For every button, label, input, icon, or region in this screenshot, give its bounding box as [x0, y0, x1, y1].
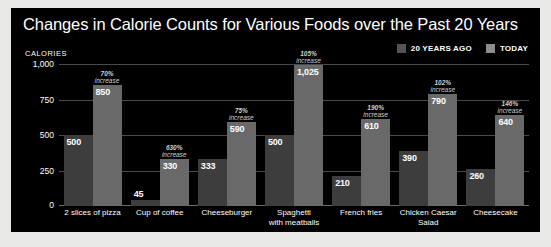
x-label-line1: Chicken Caesar [395, 208, 462, 218]
bars: 260 146% increase 640 [462, 64, 529, 206]
bar-value-old-coffee: 45 [134, 189, 144, 199]
pct-number: 70% [95, 70, 120, 77]
legend-swatch-icon-today [486, 44, 495, 53]
pct-annotation-cheeseburger: 75% increase [229, 107, 254, 121]
pct-word: increase [430, 86, 455, 93]
x-label-line1: Cup of coffee [126, 208, 193, 218]
x-label-line1: 2 slices of pizza [59, 208, 126, 218]
x-label-chicken-caesar-salad: Chicken Caesar Salad [395, 208, 462, 227]
legend-label-today: TODAY [500, 44, 528, 53]
pct-word: increase [296, 57, 321, 64]
bar-value-new-coffee: 330 [163, 161, 177, 171]
bar-value-old-cheesecake: 260 [469, 171, 483, 181]
ytick-label-750: 750 [40, 95, 54, 105]
bars: 333 75% increase 590 [193, 64, 260, 206]
pct-annotation-cheesecake: 146% increase [498, 100, 523, 114]
bar-new-pizza[interactable]: 70% increase 850 [93, 85, 122, 206]
bar-value-old-cheeseburger: 333 [201, 161, 215, 171]
bar-value-new-spaghetti: 1,025 [297, 67, 319, 77]
legend-label-20-years-ago: 20 YEARS AGO [411, 44, 472, 53]
bar-value-old-spaghetti: 500 [268, 137, 282, 147]
bar-group-pizza: 500 70% increase 850 [59, 64, 126, 206]
bar-value-old-french-fries: 210 [335, 178, 349, 188]
bar-old-cheeseburger[interactable]: 333 [198, 159, 227, 206]
ytick-label-250: 250 [40, 166, 54, 176]
pct-number: 102% [430, 79, 455, 86]
bar-value-new-pizza: 850 [96, 87, 110, 97]
legend-swatch-icon-20-years-ago [397, 44, 406, 53]
pct-number: 630% [162, 144, 187, 151]
x-label-line1: Spaghetti [260, 208, 327, 218]
chart-card: Changes in Calorie Counts for Various Fo… [11, 8, 540, 232]
chart-legend: 20 YEARS AGO TODAY [397, 44, 528, 53]
ytick-label-1000: 1,000 [33, 59, 54, 69]
bar-old-coffee[interactable]: 45 [131, 200, 160, 206]
legend-item-today: TODAY [486, 44, 528, 53]
bar-new-french-fries[interactable]: 190% increase 610 [361, 119, 390, 206]
bar-value-old-pizza: 500 [67, 137, 81, 147]
x-label-pizza: 2 slices of pizza [59, 208, 126, 227]
bar-new-spaghetti[interactable]: 105% increase 1,025 [294, 65, 323, 206]
bar-value-new-chicken-caesar-salad: 790 [431, 96, 445, 106]
bars: 45 630% increase 330 [126, 64, 193, 206]
legend-item-20-years-ago: 20 YEARS AGO [397, 44, 472, 53]
x-label-line2: with meatballs [260, 218, 327, 228]
bars: 500 70% increase 850 [59, 64, 126, 206]
y-axis-caption: CALORIES [25, 49, 67, 58]
pct-word: increase [363, 111, 388, 118]
plot-area: 1,000 750 500 250 0 500 [59, 64, 529, 206]
bar-new-coffee[interactable]: 630% increase 330 [160, 159, 189, 206]
x-label-cheesecake: Cheesecake [462, 208, 529, 227]
bar-old-chicken-caesar-salad[interactable]: 390 [399, 151, 428, 206]
x-label-cheeseburger: Cheeseburger [193, 208, 260, 227]
pct-word: increase [162, 151, 187, 158]
bar-group-spaghetti: 500 105% increase 1,025 [260, 64, 327, 206]
pct-number: 146% [498, 100, 523, 107]
bar-value-new-french-fries: 610 [364, 121, 378, 131]
x-label-line1: Cheesecake [462, 208, 529, 218]
pct-annotation-chicken-caesar-salad: 102% increase [430, 79, 455, 93]
x-axis-labels: 2 slices of pizza Cup of coffee Cheesebu… [59, 208, 529, 227]
bar-old-cheesecake[interactable]: 260 [466, 169, 495, 206]
bar-group-cheesecake: 260 146% increase 640 [462, 64, 529, 206]
pct-annotation-french-fries: 190% increase [363, 104, 388, 118]
pct-number: 105% [296, 50, 321, 57]
pct-number: 75% [229, 107, 254, 114]
bars: 500 105% increase 1,025 [260, 64, 327, 206]
pct-annotation-spaghetti: 105% increase [296, 50, 321, 64]
bar-group-cheeseburger: 333 75% increase 590 [193, 64, 260, 206]
pct-word: increase [229, 114, 254, 121]
bars: 210 190% increase 610 [328, 64, 395, 206]
bar-new-cheeseburger[interactable]: 75% increase 590 [227, 122, 256, 206]
bar-old-spaghetti[interactable]: 500 [265, 135, 294, 206]
x-label-spaghetti: Spaghetti with meatballs [260, 208, 327, 227]
bar-new-chicken-caesar-salad[interactable]: 102% increase 790 [428, 94, 457, 206]
pct-number: 190% [363, 104, 388, 111]
pct-word: increase [95, 77, 120, 84]
x-label-french-fries: French fries [328, 208, 395, 227]
bars: 390 102% increase 790 [395, 64, 462, 206]
x-label-line2: Salad [395, 218, 462, 228]
bar-group-chicken-caesar-salad: 390 102% increase 790 [395, 64, 462, 206]
x-label-line1: French fries [328, 208, 395, 218]
bar-new-cheesecake[interactable]: 146% increase 640 [495, 115, 524, 206]
x-label-line1: Cheeseburger [193, 208, 260, 218]
bar-old-pizza[interactable]: 500 [64, 135, 93, 206]
ytick-label-0: 0 [49, 200, 54, 210]
bar-group-coffee: 45 630% increase 330 [126, 64, 193, 206]
pct-annotation-pizza: 70% increase [95, 70, 120, 84]
pct-word: increase [498, 107, 523, 114]
pct-annotation-coffee: 630% increase [162, 144, 187, 158]
bar-value-old-chicken-caesar-salad: 390 [402, 153, 416, 163]
x-label-coffee: Cup of coffee [126, 208, 193, 227]
chart-title: Changes in Calorie Counts for Various Fo… [23, 15, 518, 34]
bar-groups: 500 70% increase 850 [59, 64, 529, 206]
page-root: Changes in Calorie Counts for Various Fo… [0, 0, 551, 247]
bar-group-french-fries: 210 190% increase 610 [328, 64, 395, 206]
bar-old-french-fries[interactable]: 210 [332, 176, 361, 206]
bar-value-new-cheesecake: 640 [498, 117, 512, 127]
ytick-label-500: 500 [40, 130, 54, 140]
bar-value-new-cheeseburger: 590 [230, 124, 244, 134]
